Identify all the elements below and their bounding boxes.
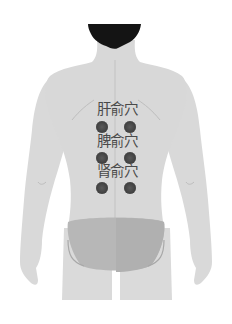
acupoint-dot-shen-shu-left [96,182,108,194]
acupoint-label-pi-shu: 脾俞穴 [89,133,145,149]
back-acupoint-illustration: 肝俞穴 脾俞穴 肾俞穴 [0,0,232,324]
body-silhouette [0,0,232,324]
acupoint-label-shen-shu: 肾俞穴 [89,163,145,179]
acupoint-dot-gan-shu-right [124,121,136,133]
leg-gap [112,270,120,302]
acupoint-dot-shen-shu-right [124,182,136,194]
acupoint-dot-gan-shu-left [96,121,108,133]
acupoint-label-gan-shu: 肝俞穴 [89,101,145,117]
